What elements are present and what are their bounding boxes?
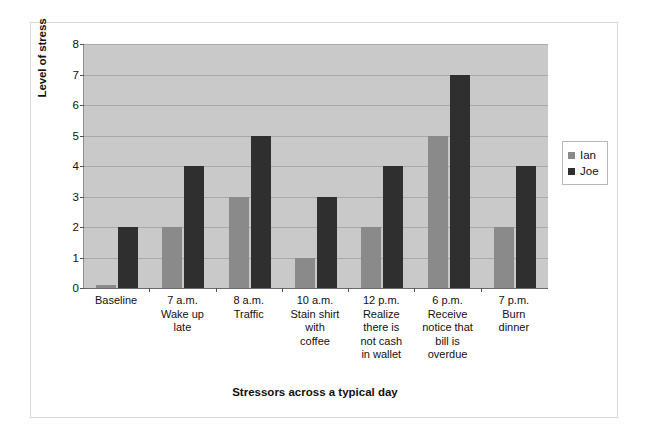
x-axis-tick-mark: [282, 288, 283, 292]
bar-group: [349, 44, 415, 288]
y-tick-label: 5: [57, 130, 79, 142]
bar-ian: [361, 227, 381, 288]
x-tick-label-line: with: [283, 321, 347, 335]
y-axis-title: Level of stress: [36, 0, 52, 128]
bar-joe: [317, 197, 337, 289]
x-tick-label-line: in wallet: [349, 348, 413, 362]
bar-group: [415, 44, 481, 288]
x-tick-label-line: Receive: [415, 308, 479, 322]
x-tick-label-line: dinner: [482, 321, 546, 335]
x-tick-label-line: notice that: [415, 321, 479, 335]
legend-item-joe[interactable]: Joe: [568, 163, 599, 179]
bar-ian: [229, 197, 249, 289]
x-tick-label: 8 a.m.Traffic: [216, 294, 282, 362]
x-tick-label: 12 p.m.Realizethere isnot cashin wallet: [348, 294, 414, 362]
x-tick-label-line: coffee: [283, 335, 347, 349]
bar-group: [283, 44, 349, 288]
bar-ian: [428, 136, 448, 289]
x-axis-tick-mark: [216, 288, 217, 292]
y-tick-label: 1: [57, 252, 79, 264]
plot-area: [83, 44, 548, 289]
bar-chart: Level of stress 876543210 Baseline7 a.m.…: [0, 0, 651, 447]
x-tick-label-line: Wake up: [150, 308, 214, 322]
x-tick-label-line: 8 a.m.: [217, 294, 281, 308]
legend-swatch-icon: [568, 168, 575, 175]
y-tick-label: 2: [57, 221, 79, 233]
bar-group: [150, 44, 216, 288]
x-tick-label-line: Burn: [482, 308, 546, 322]
bar-joe: [516, 166, 536, 288]
x-axis-tick-mark: [414, 288, 415, 292]
bar-ian: [295, 258, 315, 289]
x-tick-label: 7 p.m.Burndinner: [481, 294, 547, 362]
y-axis-tick-labels: 876543210: [57, 38, 79, 288]
x-tick-label-line: Baseline: [84, 294, 148, 308]
x-tick-label: 7 a.m.Wake uplate: [149, 294, 215, 362]
y-tick-label: 8: [57, 38, 79, 50]
x-tick-label-line: 6 p.m.: [415, 294, 479, 308]
x-tick-label-line: not cash: [349, 335, 413, 349]
x-axis-title: Stressors across a typical day: [83, 386, 547, 398]
chart-legend: IanJoe: [562, 141, 608, 185]
x-axis-tick-mark: [348, 288, 349, 292]
bar-joe: [184, 166, 204, 288]
bar-joe: [450, 75, 470, 289]
bar-group: [217, 44, 283, 288]
legend-swatch-icon: [568, 152, 575, 159]
bar-ian: [494, 227, 514, 288]
x-tick-label-line: 7 a.m.: [150, 294, 214, 308]
x-tick-label-line: 10 a.m.: [283, 294, 347, 308]
x-tick-label-line: 12 p.m.: [349, 294, 413, 308]
bar-ian: [96, 285, 116, 288]
y-tick-label: 6: [57, 99, 79, 111]
legend-item-ian[interactable]: Ian: [568, 147, 599, 163]
bar-groups: [84, 44, 548, 288]
y-axis-tick-mark: [80, 288, 84, 289]
bar-joe: [383, 166, 403, 288]
legend-label: Joe: [580, 165, 599, 178]
y-tick-label: 7: [57, 69, 79, 81]
x-tick-label: 6 p.m.Receivenotice thatbill isoverdue: [414, 294, 480, 362]
x-tick-label-line: there is: [349, 321, 413, 335]
bar-ian: [162, 227, 182, 288]
x-tick-label: Baseline: [83, 294, 149, 362]
x-tick-label-line: 7 p.m.: [482, 294, 546, 308]
x-tick-label-line: overdue: [415, 348, 479, 362]
y-tick-label: 3: [57, 191, 79, 203]
y-tick-label: 0: [57, 282, 79, 294]
y-tick-label: 4: [57, 160, 79, 172]
legend-label: Ian: [580, 149, 596, 162]
x-tick-label-line: bill is: [415, 335, 479, 349]
bar-group: [84, 44, 150, 288]
x-tick-label-line: late: [150, 321, 214, 335]
bar-joe: [251, 136, 271, 289]
x-tick-label: 10 a.m.Stain shirtwithcoffee: [282, 294, 348, 362]
x-tick-label-line: Stain shirt: [283, 308, 347, 322]
bar-group: [482, 44, 548, 288]
bar-joe: [118, 227, 138, 288]
x-tick-label-line: Traffic: [217, 308, 281, 322]
x-axis-tick-labels: Baseline7 a.m.Wake uplate8 a.m.Traffic10…: [83, 294, 547, 362]
x-axis-tick-mark: [481, 288, 482, 292]
x-axis-tick-mark: [149, 288, 150, 292]
x-tick-label-line: Realize: [349, 308, 413, 322]
